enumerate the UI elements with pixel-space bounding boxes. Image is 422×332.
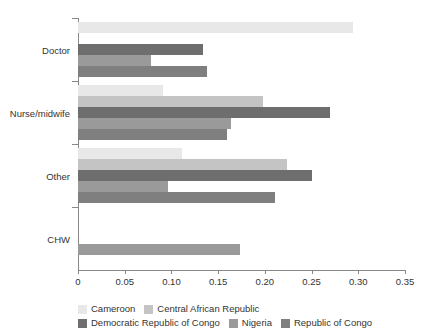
legend-item[interactable]: Cameroon <box>78 303 135 315</box>
category-label: CHW <box>47 233 70 244</box>
legend-label: Democratic Republic of Congo <box>91 317 220 329</box>
bar <box>78 66 207 77</box>
legend-swatch-icon <box>144 305 153 314</box>
x-axis-tick <box>78 270 79 274</box>
legend-swatch-icon <box>281 319 290 328</box>
legend-item[interactable]: Democratic Republic of Congo <box>78 317 220 329</box>
bar <box>78 118 231 129</box>
bar-group: Doctor <box>78 18 405 81</box>
legend-label: Republic of Congo <box>294 317 372 329</box>
legend-label: Nigeria <box>242 317 272 329</box>
bar-group: Other <box>78 144 405 207</box>
x-axis-tick-label: 0 <box>75 276 80 287</box>
x-axis-tick <box>218 270 219 274</box>
x-axis-tick-label: 0.10 <box>162 276 181 287</box>
bar <box>78 192 275 203</box>
bar <box>78 55 151 66</box>
bar-group: CHW <box>78 207 405 270</box>
x-axis-tick-label: 0.05 <box>115 276 134 287</box>
bar <box>78 22 353 33</box>
x-axis-tick <box>358 270 359 274</box>
x-axis-tick-label: 0.25 <box>302 276 321 287</box>
x-axis-line <box>78 270 406 271</box>
legend-swatch-icon <box>78 319 87 328</box>
x-axis-tick <box>265 270 266 274</box>
bar <box>78 129 227 140</box>
x-axis-tick-label: 0.20 <box>256 276 275 287</box>
bar <box>78 44 203 55</box>
bar <box>78 148 182 159</box>
legend-item[interactable]: Central African Republic <box>144 303 259 315</box>
legend-swatch-icon <box>229 319 238 328</box>
x-axis-tick <box>405 270 406 274</box>
bar <box>78 159 287 170</box>
legend-item[interactable]: Republic of Congo <box>281 317 372 329</box>
x-axis-tick-label: 0.30 <box>349 276 368 287</box>
plot-area: DoctorNurse/midwifeOtherCHW <box>78 18 405 270</box>
legend-label: Cameroon <box>91 303 135 315</box>
category-label: Doctor <box>42 44 70 55</box>
x-axis-tick <box>171 270 172 274</box>
chart-legend: CameroonCentral African RepublicDemocrat… <box>78 303 418 331</box>
bar-chart: 00.050.100.150.200.250.300.35 DoctorNurs… <box>0 0 422 332</box>
category-label: Nurse/midwife <box>10 107 70 118</box>
bar <box>78 244 240 255</box>
x-axis-tick-label: 0.35 <box>396 276 415 287</box>
category-label: Other <box>46 170 70 181</box>
x-axis-tick-label: 0.15 <box>209 276 228 287</box>
x-axis-tick <box>312 270 313 274</box>
bar-group: Nurse/midwife <box>78 81 405 144</box>
legend-label: Central African Republic <box>157 303 259 315</box>
bar <box>78 170 312 181</box>
legend-swatch-icon <box>78 305 87 314</box>
bar <box>78 107 330 118</box>
bar <box>78 85 163 96</box>
legend-item[interactable]: Nigeria <box>229 317 272 329</box>
x-axis-tick <box>125 270 126 274</box>
bar <box>78 96 263 107</box>
bar <box>78 181 168 192</box>
